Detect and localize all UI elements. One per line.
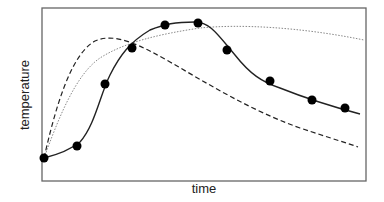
dotted-curve: [44, 26, 364, 158]
x-axis-label: time: [192, 181, 217, 196]
chart: time temperature: [0, 0, 384, 202]
plot-frame: [42, 8, 366, 181]
data-points: [40, 19, 350, 163]
y-axis-label: temperature: [17, 60, 32, 130]
solid-fit-curve: [44, 22, 360, 158]
